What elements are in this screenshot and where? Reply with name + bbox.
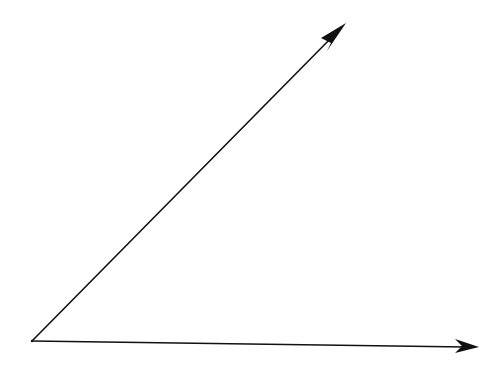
lower-ray: [32, 339, 479, 353]
lower-ray-arrowhead-icon: [455, 339, 479, 353]
upper-ray-arrowhead-icon: [321, 23, 346, 51]
upper-ray-line: [32, 33, 336, 341]
lower-ray-line: [32, 341, 466, 347]
angle-diagram: [0, 0, 503, 371]
upper-ray: [32, 23, 346, 341]
